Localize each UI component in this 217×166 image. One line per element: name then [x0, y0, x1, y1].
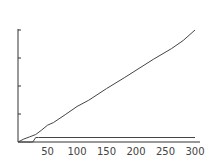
x-tick-label: 50 — [41, 146, 54, 157]
x-tick-label: 200 — [126, 146, 145, 157]
series-flat-line — [18, 138, 195, 143]
x-tick-label: 300 — [185, 146, 204, 157]
x-tick-label: 100 — [67, 146, 86, 157]
line-chart: 50100150200250300 — [0, 0, 217, 166]
x-tick-label: 250 — [156, 146, 175, 157]
series-diagonal-line — [18, 30, 195, 142]
y-axis — [18, 29, 21, 142]
plot-lines — [18, 30, 195, 142]
x-tick-label: 150 — [97, 146, 116, 157]
x-axis: 50100150200250300 — [18, 142, 205, 157]
